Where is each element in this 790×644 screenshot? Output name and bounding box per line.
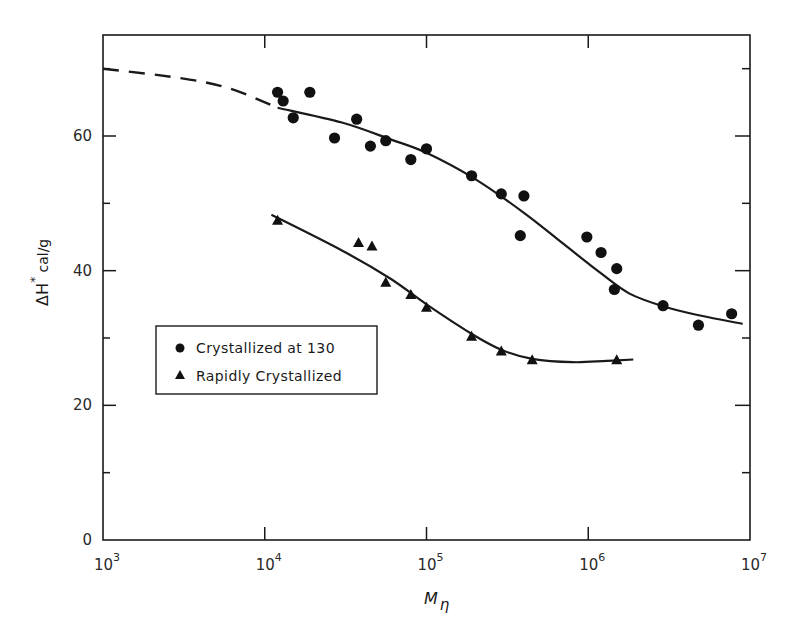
x-tick-label: 103: [94, 551, 120, 574]
chart-figure: 1031041051061070204060 Crystallized at 1…: [0, 0, 790, 644]
data-point-circle: [466, 170, 477, 181]
data-point-triangle: [353, 237, 364, 247]
data-point-circle: [518, 190, 529, 201]
y-tick-label: 40: [73, 262, 92, 280]
data-point-circle: [380, 135, 391, 146]
fit-curve-crystallized-130: [278, 108, 743, 324]
fit-curves: [103, 69, 743, 363]
data-point-circle: [595, 247, 606, 258]
legend-label-circle: Crystallized at 130: [196, 340, 335, 356]
extrapolation-dashed-line: [103, 69, 278, 108]
y-axis-title: ΔH*cal/g: [27, 239, 52, 306]
x-axis-title-main: M: [424, 589, 438, 608]
legend-circle-icon: [176, 344, 185, 353]
axis-ticks: [103, 35, 750, 540]
data-point-circle: [611, 263, 622, 274]
plot-frame: [103, 35, 750, 540]
data-point-circle: [278, 95, 289, 106]
x-tick-label: 106: [579, 551, 605, 574]
data-point-circle: [581, 231, 592, 242]
data-point-circle: [351, 114, 362, 125]
x-tick-label: 105: [418, 551, 444, 574]
data-point-circle: [421, 143, 432, 154]
x-tick-label: 104: [256, 551, 282, 574]
y-tick-label: 60: [73, 127, 92, 145]
data-point-circle: [365, 141, 376, 152]
x-tick-label: 107: [741, 551, 767, 574]
y-tick-label: 20: [73, 396, 92, 414]
y-tick-label: 0: [82, 531, 92, 549]
data-point-circle: [288, 112, 299, 123]
data-point-circle: [405, 154, 416, 165]
data-point-circle: [304, 87, 315, 98]
data-markers: [272, 87, 737, 365]
x-axis-title-sub: η: [440, 596, 450, 614]
data-point-triangle: [366, 240, 377, 250]
y-axis-title-unit: cal/g: [35, 239, 51, 273]
data-point-circle: [726, 308, 737, 319]
y-axis-title-sup: *: [27, 276, 42, 283]
data-point-circle: [693, 320, 704, 331]
x-axis-title: Mη: [424, 589, 450, 614]
legend: Crystallized at 130 Rapidly Crystallized: [156, 326, 377, 394]
data-point-circle: [496, 188, 507, 199]
y-axis-title-main: ΔH: [33, 283, 52, 306]
legend-label-triangle: Rapidly Crystallized: [196, 368, 342, 384]
data-point-circle: [329, 132, 340, 143]
data-point-circle: [609, 284, 620, 295]
y-axis-title-delta: ΔH*cal/g: [27, 239, 52, 306]
data-point-circle: [657, 300, 668, 311]
data-point-circle: [515, 230, 526, 241]
